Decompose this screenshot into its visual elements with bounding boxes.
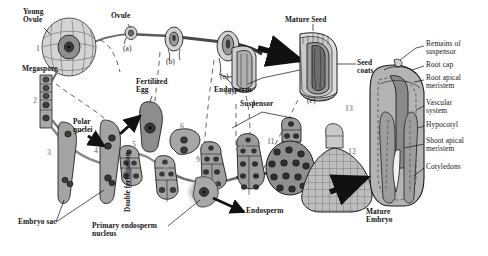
stage-letter-d: (d) bbox=[225, 87, 234, 96]
callout-root-apical-meristem: Root apical meristem bbox=[426, 74, 461, 90]
stage-number-4: 4 bbox=[94, 146, 98, 155]
structure-embryo-6 bbox=[170, 129, 200, 155]
label-fertilized-egg: Fertilized Egg bbox=[136, 78, 167, 94]
stage-number-11: 11 bbox=[267, 137, 275, 146]
stage-number-8: 8 bbox=[164, 166, 168, 175]
label-mature-embryo: Mature Embryo bbox=[366, 208, 392, 224]
leader-fertilized-egg bbox=[150, 96, 152, 102]
structure-embryo-8 bbox=[155, 156, 178, 202]
stage-number-10: 10 bbox=[239, 140, 247, 149]
stage-letter-e: (e) bbox=[307, 96, 315, 105]
callout-shoot-apical-meristem: Shoot apical meristem bbox=[426, 137, 464, 153]
structure-primary-endosperm-nucleus bbox=[184, 175, 222, 209]
label-double-fertilization: Double fertilization bbox=[124, 152, 132, 212]
stage-letter-c: (c) bbox=[220, 72, 228, 81]
callout-root-cap: Root cap bbox=[426, 61, 453, 69]
arrow-endosperm-bottom bbox=[213, 198, 244, 212]
label-ovule: Ovule bbox=[111, 12, 130, 20]
stage-number-6: 6 bbox=[180, 122, 184, 131]
callout-cotyledons: Cotyledons bbox=[426, 163, 461, 171]
label-embryo-sac: Embryo sac bbox=[18, 218, 57, 226]
label-polar-nuclei: Polar nuclei bbox=[73, 118, 93, 134]
stage-letter-b: (b) bbox=[166, 57, 175, 66]
figure-canvas: Young Ovule Megaspore Ovule Polar nuclei… bbox=[0, 0, 488, 256]
structure-mature-embryo bbox=[370, 59, 424, 206]
structure-embryo-12 bbox=[302, 124, 372, 212]
label-endosperm-bottom: Endosperm bbox=[246, 207, 283, 215]
stage-number-3: 3 bbox=[47, 148, 51, 157]
stage-letter-a: (a) bbox=[123, 44, 131, 53]
callout-remains-of-suspensor: Remains of suspensor bbox=[426, 40, 461, 56]
label-seed-coats: Seed coats bbox=[357, 59, 374, 75]
stage-number-12: 12 bbox=[348, 147, 356, 156]
structure-ovule-b bbox=[165, 27, 183, 60]
stage-number-13: 13 bbox=[345, 104, 353, 113]
leader-primary-endosperm-nucleus bbox=[168, 200, 200, 226]
structure-ovule-a bbox=[124, 27, 137, 45]
stage-number-5: 5 bbox=[132, 140, 136, 149]
stage-number-7: 7 bbox=[112, 145, 116, 154]
stage-number-2: 2 bbox=[33, 96, 37, 105]
arrow-double-fertilization bbox=[120, 116, 140, 134]
callout-vascular-system: Vascular system bbox=[426, 99, 452, 115]
structure-mature-seed bbox=[300, 33, 337, 101]
stage-number-1: 1 bbox=[36, 44, 40, 53]
stage-number-9: 9 bbox=[196, 155, 200, 164]
label-suspensor: Suspensor bbox=[240, 100, 273, 108]
label-primary-endosperm-nucleus: Primary endosperm nucleus bbox=[92, 222, 157, 238]
label-mature-seed: Mature Seed bbox=[285, 16, 326, 24]
callout-hypocotyl: Hypocotyl bbox=[426, 121, 458, 129]
structure-fertilized-egg bbox=[140, 102, 163, 152]
arrow-seed-maturation bbox=[258, 48, 300, 60]
label-megaspore: Megaspore bbox=[22, 65, 58, 73]
label-young-ovule: Young Ovule bbox=[23, 8, 44, 24]
